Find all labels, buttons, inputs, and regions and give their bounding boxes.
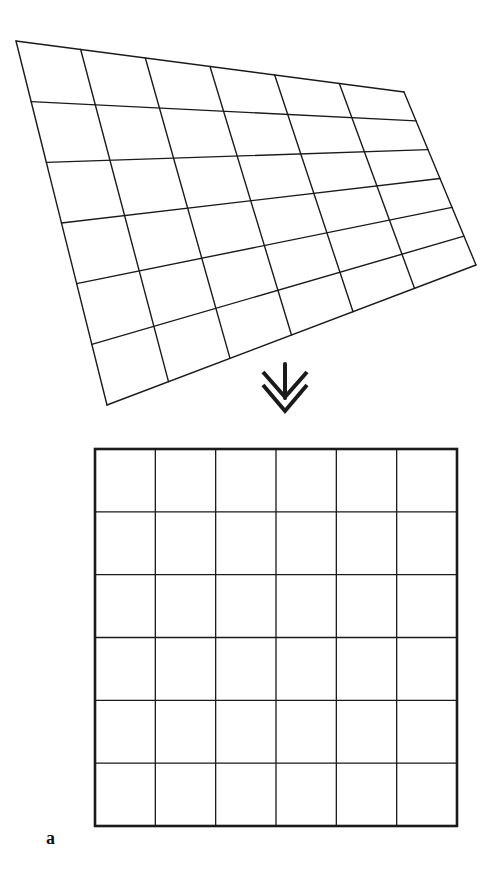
panel-label: a [46,829,55,847]
double-chevron-down-arrow-icon [263,364,307,411]
distorted-grid-col-line [210,67,292,336]
distorted-grid [16,41,476,405]
distorted-grid-col-line [145,58,230,358]
rectified-grid [95,449,457,826]
distorted-grid-col-line [339,84,414,289]
perspective-rectification-diagram [0,0,502,888]
distorted-grid-col-line [81,50,169,382]
distorted-grid-col-line [404,92,476,265]
distorted-grid-col-line [275,75,353,312]
